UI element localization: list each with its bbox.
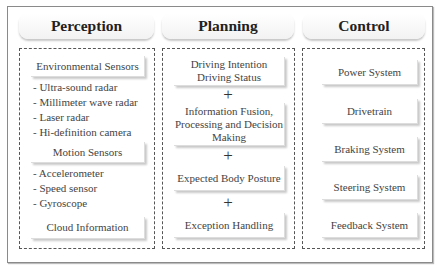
- control-box-steering: Steering System: [322, 175, 418, 200]
- planning-box-posture: Expected Body Posture: [174, 166, 285, 191]
- cloud-information-header: Cloud Information: [31, 217, 145, 239]
- perception-title: Perception: [19, 13, 154, 39]
- perception-item: - Hi-definition camera: [33, 126, 131, 138]
- planning-title: Planning: [162, 13, 294, 39]
- planning-box-exception: Exception Handling: [174, 213, 285, 238]
- control-title: Control: [303, 13, 425, 39]
- control-box-braking: Braking System: [322, 137, 418, 162]
- box-line: Driving Status: [191, 71, 268, 84]
- planning-box-fusion: Information Fusion,Processing and Decisi…: [174, 103, 285, 146]
- box-line: Driving Intention: [191, 58, 268, 71]
- environmental-sensors-header: Environmental Sensors: [31, 56, 145, 77]
- perception-item: - Accelerometer: [33, 167, 104, 179]
- box-line: Processing and Decision: [175, 118, 283, 131]
- motion-sensors-header: Motion Sensors: [31, 142, 145, 163]
- plus-icon: +: [218, 88, 238, 102]
- perception-item: - Gyroscope: [33, 197, 87, 209]
- perception-item: - Millimeter wave radar: [33, 96, 138, 108]
- planning-box-driving: Driving IntentionDriving Status: [174, 57, 285, 86]
- perception-item: - Speed sensor: [33, 182, 97, 194]
- box-line: Information Fusion,: [175, 105, 283, 118]
- plus-icon: +: [218, 149, 238, 163]
- box-line: Exception Handling: [185, 219, 273, 232]
- box-line: Expected Body Posture: [177, 172, 280, 185]
- box-line: Making: [175, 131, 283, 144]
- control-box-drivetrain: Drivetrain: [322, 99, 418, 124]
- control-box-feedback: Feedback System: [322, 213, 418, 238]
- perception-item: - Ultra-sound radar: [33, 81, 117, 93]
- control-box-power: Power System: [322, 60, 418, 85]
- plus-icon: +: [218, 196, 238, 210]
- perception-item: - Laser radar: [33, 111, 89, 123]
